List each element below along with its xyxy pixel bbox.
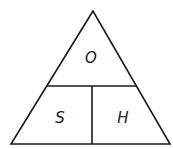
bottom-right-label: H	[117, 109, 128, 127]
bottom-left-label: S	[55, 109, 65, 127]
formula-triangle-diagram: O S H	[0, 0, 173, 149]
top-label: O	[85, 49, 97, 67]
triangle-outline	[11, 11, 170, 144]
